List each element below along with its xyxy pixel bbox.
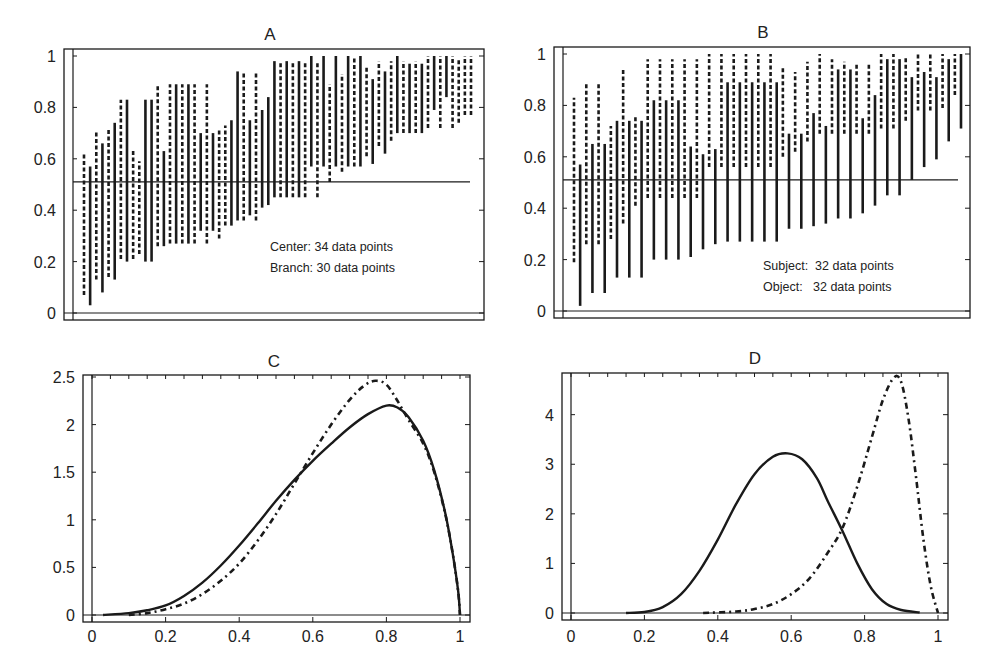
y-tick-label: 2 bbox=[66, 417, 75, 434]
y-tick-label: 0.6 bbox=[524, 149, 546, 166]
x-tick-label: 0.8 bbox=[375, 628, 397, 645]
y-tick-label: 4 bbox=[545, 407, 554, 424]
y-tick-label: 0 bbox=[545, 605, 554, 622]
y-tick-label: 0.6 bbox=[34, 151, 56, 168]
dashdot-density-curve bbox=[129, 381, 460, 615]
y-tick-label: 0 bbox=[66, 607, 75, 624]
y-tick-label: 0 bbox=[47, 305, 56, 322]
y-tick-label: 0 bbox=[537, 303, 546, 320]
dashdot-density-curve bbox=[703, 376, 938, 613]
panel-title: D bbox=[749, 349, 761, 368]
y-tick-label: 3 bbox=[545, 456, 554, 473]
x-tick-label: 0.4 bbox=[228, 628, 250, 645]
y-tick-label: 1 bbox=[66, 512, 75, 529]
x-tick-label: 0.6 bbox=[302, 628, 324, 645]
x-tick-label: 0.2 bbox=[154, 628, 176, 645]
y-tick-label: 0.2 bbox=[34, 254, 56, 271]
x-tick-label: 0 bbox=[88, 628, 97, 645]
panel-title: A bbox=[264, 25, 276, 44]
figure: 00.20.40.60.81ACenter: 34 data pointsBra… bbox=[0, 0, 986, 662]
annotation-text: Subject: 32 data points bbox=[763, 259, 894, 273]
x-tick-label: 1 bbox=[456, 628, 465, 645]
y-tick-label: 0.4 bbox=[524, 200, 546, 217]
y-tick-label: 0.8 bbox=[34, 99, 56, 116]
y-tick-label: 1.5 bbox=[53, 464, 75, 481]
solid-density-curve bbox=[103, 405, 460, 615]
panel-title: C bbox=[268, 352, 280, 371]
panel-title: B bbox=[757, 23, 768, 42]
y-tick-label: 1 bbox=[537, 46, 546, 63]
y-tick-label: 1 bbox=[47, 48, 56, 65]
x-tick-label: 0.6 bbox=[780, 628, 802, 645]
annotation-text: Center: 34 data points bbox=[270, 240, 393, 254]
solid-density-curve bbox=[626, 453, 920, 613]
annotation-text: Branch: 30 data points bbox=[270, 261, 395, 275]
x-tick-label: 0.8 bbox=[853, 628, 875, 645]
x-tick-label: 1 bbox=[934, 628, 943, 645]
panel-a: 00.20.40.60.81ACenter: 34 data pointsBra… bbox=[34, 25, 484, 322]
y-tick-label: 0.8 bbox=[524, 97, 546, 114]
panel-d: 0123400.20.40.60.81D bbox=[545, 349, 948, 645]
x-tick-label: 0.4 bbox=[707, 628, 729, 645]
x-tick-label: 0 bbox=[567, 628, 576, 645]
annotation-text: Object: 32 data points bbox=[763, 280, 892, 294]
panel-d-frame bbox=[562, 373, 948, 620]
y-tick-label: 0.4 bbox=[34, 202, 56, 219]
y-tick-label: 2.5 bbox=[53, 369, 75, 386]
y-tick-label: 0.5 bbox=[53, 559, 75, 576]
x-tick-label: 0.2 bbox=[633, 628, 655, 645]
y-tick-label: 0.2 bbox=[524, 252, 546, 269]
y-tick-label: 2 bbox=[545, 506, 554, 523]
y-tick-label: 1 bbox=[545, 555, 554, 572]
panel-c: 00.511.522.500.20.40.60.81C bbox=[53, 352, 470, 645]
panel-b: 00.20.40.60.81BSubject: 32 data pointsOb… bbox=[524, 23, 970, 320]
